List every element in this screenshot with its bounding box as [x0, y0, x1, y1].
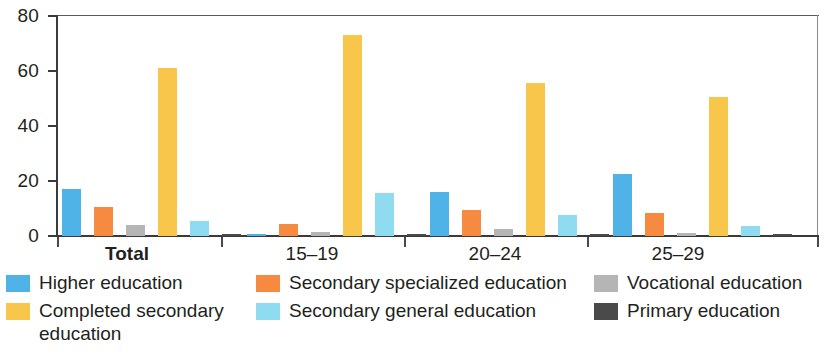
bar — [741, 226, 760, 236]
bar — [158, 68, 177, 236]
legend-item[interactable]: Vocational education — [594, 272, 828, 294]
legend-item-label: Completed secondary education — [39, 300, 252, 345]
legend-item[interactable]: Primary education — [594, 300, 828, 322]
bar-group — [430, 16, 609, 236]
bar — [558, 215, 577, 236]
x-axis-category-label: 15–19 — [237, 244, 387, 264]
legend-item[interactable]: Secondary general education — [256, 300, 586, 322]
y-axis-tick-label: 40 — [0, 116, 39, 135]
bar — [494, 229, 513, 236]
bar — [94, 207, 113, 236]
bar — [222, 234, 241, 236]
bar — [375, 193, 394, 236]
legend-column-2: Secondary specialized educationSecondary… — [256, 272, 586, 329]
bar — [462, 210, 481, 236]
bar — [677, 233, 696, 236]
legend-item-label: Secondary specialized education — [289, 272, 567, 294]
legend-item-label: Vocational education — [627, 272, 802, 294]
legend-color-swatch-icon — [6, 275, 30, 292]
legend-item[interactable]: Completed secondary education — [6, 300, 252, 345]
chart-legend: Higher educationCompleted secondary educ… — [4, 272, 824, 354]
bar — [343, 35, 362, 236]
legend-item-label: Primary education — [627, 300, 780, 322]
bar — [311, 232, 330, 236]
bar — [407, 234, 426, 236]
legend-column-3: Vocational educationPrimary education — [594, 272, 828, 329]
y-axis-tick-label: 0 — [0, 226, 39, 245]
legend-item[interactable]: Higher education — [6, 272, 252, 294]
legend-color-swatch-icon — [6, 303, 30, 320]
bar — [247, 234, 266, 236]
y-axis-tick — [48, 15, 57, 17]
y-axis-tick-label: 20 — [0, 171, 39, 190]
legend-item-label: Secondary general education — [289, 300, 536, 322]
bar — [430, 192, 449, 236]
x-axis-tick — [221, 237, 223, 247]
x-axis-category-label: 25–29 — [603, 244, 753, 264]
y-axis-tick — [48, 235, 57, 237]
legend-color-swatch-icon — [256, 275, 280, 292]
bar — [190, 221, 209, 236]
y-axis-tick — [48, 180, 57, 182]
plot-area — [57, 16, 818, 236]
x-axis-category-label: Total — [52, 244, 202, 264]
legend-color-swatch-icon — [256, 303, 280, 320]
x-axis-tick — [404, 237, 406, 247]
legend-item-label: Higher education — [39, 272, 183, 294]
bar — [62, 189, 81, 236]
bar — [526, 83, 545, 236]
legend-color-swatch-icon — [594, 275, 618, 292]
y-axis-tick-label: 60 — [0, 61, 39, 80]
bar — [279, 224, 298, 236]
bar — [126, 225, 145, 236]
legend-item[interactable]: Secondary specialized education — [256, 272, 586, 294]
x-axis-category-label: 20–24 — [420, 244, 570, 264]
legend-column-1: Higher educationCompleted secondary educ… — [6, 272, 252, 351]
x-axis-tick — [587, 237, 589, 247]
bar-group — [62, 16, 241, 236]
bar-group — [613, 16, 792, 236]
x-axis-tick — [817, 237, 819, 247]
bar — [709, 97, 728, 236]
bar-group — [247, 16, 426, 236]
bar — [590, 234, 609, 236]
bar-chart: 020406080 Total15–1920–2425–29 Higher ed… — [0, 0, 828, 356]
y-axis-tick — [48, 70, 57, 72]
bar — [613, 174, 632, 236]
y-axis-tick-label: 80 — [0, 6, 39, 25]
legend-color-swatch-icon — [594, 303, 618, 320]
y-axis-tick — [48, 125, 57, 127]
bar — [645, 213, 664, 236]
bar — [773, 234, 792, 236]
